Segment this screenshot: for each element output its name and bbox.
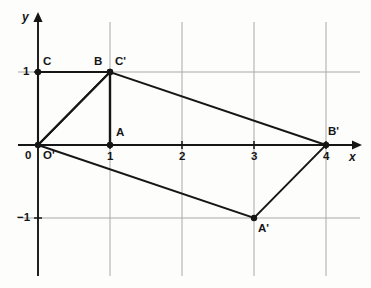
point-label-A: A bbox=[116, 127, 124, 139]
x-tick-label-4: 4 bbox=[323, 151, 329, 163]
point-dot-C bbox=[35, 69, 41, 75]
x-tick-label-3: 3 bbox=[251, 151, 257, 163]
point-dot-Cprime bbox=[107, 69, 113, 75]
point-dot-O bbox=[35, 142, 41, 148]
y-axis-arrowhead bbox=[33, 12, 42, 22]
point-label-C: C bbox=[43, 56, 51, 68]
point-dot-Aprime bbox=[251, 215, 257, 221]
point-label-Bprime: B' bbox=[328, 126, 339, 138]
y-axis-label: y bbox=[22, 11, 29, 23]
gridlines-group bbox=[18, 22, 360, 276]
point-label-B: B bbox=[94, 56, 102, 68]
point-label-O: 0 bbox=[25, 150, 31, 162]
plot-canvas bbox=[0, 0, 371, 288]
point-dot-Bprime bbox=[323, 142, 329, 148]
x-axis-label: x bbox=[349, 151, 356, 163]
axes-group bbox=[18, 12, 362, 276]
point-label-Oprime: O' bbox=[43, 150, 55, 162]
y-tick-label-1: 1 bbox=[23, 66, 29, 78]
point-label-Cprime: C' bbox=[115, 56, 126, 68]
x-tick-label-2: 2 bbox=[179, 151, 185, 163]
x-axis-arrowhead bbox=[352, 140, 362, 149]
point-label-Aprime: A' bbox=[258, 223, 269, 235]
point-dot-A bbox=[107, 142, 113, 148]
y-tick-label-minus-1: −1 bbox=[17, 212, 30, 224]
coordinate-figure: y x 1 2 3 4 1 −1 0O'ABCC'A'B' bbox=[0, 0, 371, 288]
x-tick-label-1: 1 bbox=[107, 151, 113, 163]
